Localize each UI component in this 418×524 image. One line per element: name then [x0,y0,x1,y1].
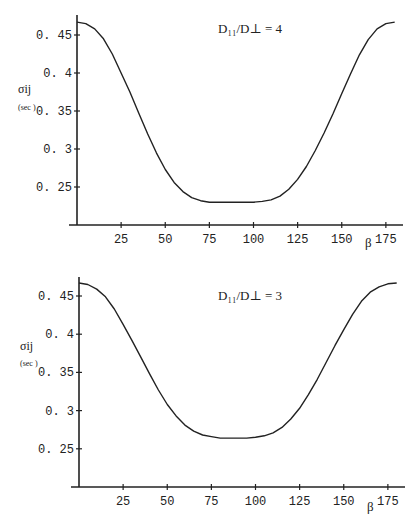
y-axis-label: σij [20,339,33,353]
x-tick-label: 150 [331,233,353,247]
y-tick-label: 0. 35 [38,366,74,380]
y-tick-label: 0. 3 [43,143,72,157]
y-axis-unit: (sec ) [20,359,38,368]
x-tick-label: 75 [202,233,216,247]
x-tick-label: 125 [289,495,311,509]
y-tick-label: 0. 25 [36,181,72,195]
x-tick-label: 25 [116,495,130,509]
x-tick-label: 50 [160,495,174,509]
x-tick-label: 50 [158,233,172,247]
y-axis-label: σij [18,82,31,96]
y-tick-label: 0. 45 [38,290,74,304]
x-tick-label: 125 [287,233,309,247]
x-tick-label: 25 [114,233,128,247]
x-tick-label: 100 [245,495,267,509]
ratio-annotation: D₁₁/D⊥ = 3 [218,288,282,303]
x-tick-label: 175 [375,233,397,247]
x-tick-label: 100 [243,233,265,247]
figure: 2550751001251501750. 250. 30. 350. 40. 4… [0,0,418,524]
data-curve [77,22,395,202]
x-axis-label: β [367,499,374,514]
y-axis-unit: (sec ) [18,103,36,112]
y-tick-label: 0. 4 [45,328,74,342]
x-tick-label: 175 [377,495,399,509]
x-tick-label: 75 [204,495,218,509]
y-tick-label: 0. 35 [36,105,72,119]
chart-bottom: 2550751001251501750. 250. 30. 350. 40. 4… [20,277,405,514]
x-tick-label: 150 [333,495,355,509]
y-tick-label: 0. 45 [36,29,72,43]
ratio-annotation: D₁₁/D⊥ = 4 [218,21,283,36]
y-tick-label: 0. 4 [43,67,72,81]
x-axis-label: β [365,235,372,250]
data-curve [79,283,397,438]
chart-top: 2550751001251501750. 250. 30. 350. 40. 4… [18,15,403,250]
y-tick-label: 0. 25 [38,443,74,457]
y-tick-label: 0. 3 [45,405,74,419]
